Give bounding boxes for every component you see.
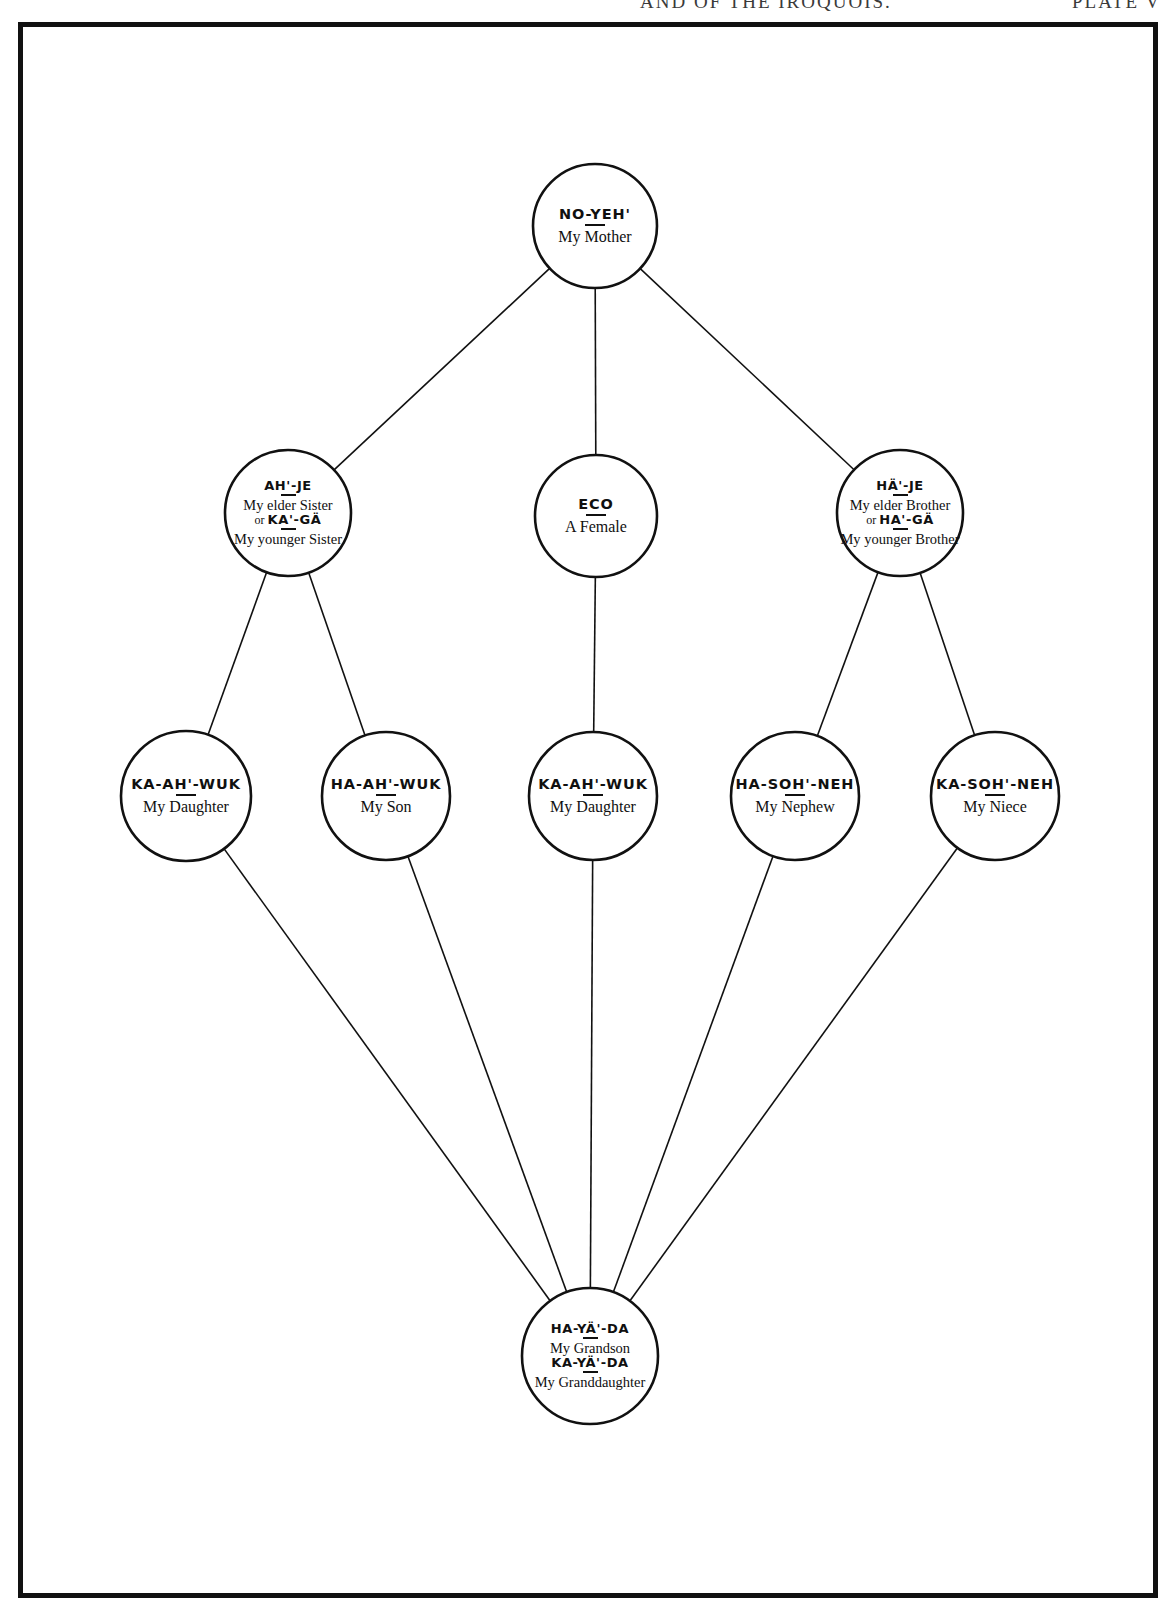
- node-divider-rule: [281, 494, 296, 496]
- node-divider-rule: [785, 794, 805, 796]
- node-divider-rule: [176, 794, 196, 796]
- kinship-edge-sister-to-son-left: [308, 572, 365, 737]
- kinship-edge-mother-to-brother: [639, 268, 854, 471]
- node-gloss-daughter-center: My Daughter: [550, 798, 636, 816]
- node-divider-rule: [586, 514, 606, 516]
- kinship-node-mother[interactable]: NO-YEH'My Mother: [525, 164, 665, 288]
- kinship-node-sister[interactable]: AH'-JEMy elder Sisteror KA'-GÄMy younger…: [217, 450, 359, 576]
- node-gloss-daughter-left: My Daughter: [143, 798, 229, 816]
- node-divider-rule: [585, 224, 605, 226]
- kinship-edge-nephew-to-grandchild: [613, 855, 773, 1293]
- kinship-edge-daughter-center-to-grandchild: [590, 859, 592, 1289]
- node-divider-rule: [985, 794, 1005, 796]
- node-gloss-alt-sister: My younger Sister: [234, 531, 342, 547]
- node-gloss-grandchild: My Grandson: [550, 1340, 630, 1356]
- node-divider-rule: [893, 494, 908, 496]
- node-native-term-brother: HÄ'-JE: [876, 479, 924, 493]
- node-gloss-niece: My Niece: [963, 798, 1027, 816]
- kinship-edge-brother-to-nephew: [817, 571, 879, 737]
- kinship-edge-daughter-left-to-grandchild: [223, 848, 550, 1302]
- node-divider-rule-alt: [281, 528, 296, 530]
- node-alt-prefix: or: [866, 513, 879, 527]
- kinship-node-daughter-center[interactable]: KA-AH'-WUKMy Daughter: [521, 732, 665, 860]
- node-native-term-daughter-left: KA-AH'-WUK: [131, 777, 241, 792]
- node-native-term-nephew: HA-SOH'-NEH: [736, 777, 855, 792]
- node-gloss-mother: My Mother: [558, 228, 631, 246]
- node-native-term-grandchild: HA-YÄ'-DA: [551, 1322, 629, 1336]
- kinship-node-niece[interactable]: KA-SOH'-NEHMy Niece: [923, 732, 1067, 860]
- node-native-term-son-left: HA-AH'-WUK: [331, 777, 442, 792]
- node-native-term-niece: KA-SOH'-NEH: [936, 777, 1054, 792]
- node-gloss-son-left: My Son: [360, 798, 411, 816]
- node-gloss-brother: My elder Brother: [850, 497, 951, 513]
- node-divider-rule: [583, 1337, 598, 1339]
- kinship-node-ego[interactable]: ECOA Female: [527, 455, 664, 577]
- node-gloss-nephew: My Nephew: [755, 798, 835, 816]
- node-native-term-alt-brother: or HA'-GÄ: [866, 513, 934, 527]
- kinship-node-grandchild[interactable]: HA-YÄ'-DAMy GrandsonKA-YÄ'-DAMy Granddau…: [514, 1288, 667, 1424]
- kinship-node-daughter-left[interactable]: KA-AH'-WUKMy Daughter: [113, 731, 259, 861]
- node-native-term-sister: AH'-JE: [264, 479, 312, 493]
- kinship-edge-niece-to-grandchild: [629, 847, 958, 1302]
- node-gloss-alt-brother: My younger Brother: [840, 531, 959, 547]
- node-gloss-sister: My elder Sister: [243, 497, 332, 513]
- kinship-node-son-left[interactable]: HA-AH'-WUKMy Son: [314, 732, 458, 860]
- kinship-edge-ego-to-daughter-center: [594, 576, 596, 733]
- node-divider-rule-alt: [583, 1371, 598, 1373]
- node-gloss-ego: A Female: [565, 518, 627, 536]
- kinship-edge-brother-to-niece: [920, 572, 975, 736]
- kinship-edge-mother-to-sister: [333, 268, 550, 471]
- node-native-term-daughter-center: KA-AH'-WUK: [538, 777, 648, 792]
- kinship-edge-son-left-to-grandchild: [408, 855, 568, 1293]
- node-divider-rule-alt: [893, 528, 908, 530]
- node-native-term-ego: ECO: [578, 497, 614, 512]
- node-divider-rule: [376, 794, 396, 796]
- node-native-term-mother: NO-YEH': [559, 207, 631, 222]
- kinship-node-nephew[interactable]: HA-SOH'-NEHMy Nephew: [723, 732, 867, 860]
- node-alt-prefix: or: [255, 513, 268, 527]
- kinship-edge-sister-to-daughter-left: [208, 571, 267, 735]
- node-native-term-alt-sister: or KA'-GÄ: [255, 513, 322, 527]
- kinship-node-brother[interactable]: HÄ'-JEMy elder Brotheror HA'-GÄMy younge…: [829, 450, 971, 576]
- node-gloss-alt-grandchild: My Granddaughter: [535, 1374, 646, 1390]
- kinship-edge-mother-to-ego: [595, 287, 596, 456]
- node-native-term-alt-grandchild: KA-YÄ'-DA: [551, 1356, 628, 1370]
- node-divider-rule: [583, 794, 603, 796]
